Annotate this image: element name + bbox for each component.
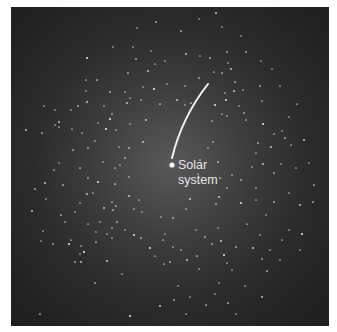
solar-system-label: Solar system: [178, 158, 218, 188]
solar-system-label-line1: Solar: [178, 158, 218, 173]
trajectory-arc: [11, 7, 329, 326]
solar-system-marker: [169, 162, 174, 167]
solar-system-label-line2: system: [178, 173, 218, 188]
star-field-panel: Solar system: [11, 7, 329, 326]
solar-path-curve: [172, 84, 208, 158]
